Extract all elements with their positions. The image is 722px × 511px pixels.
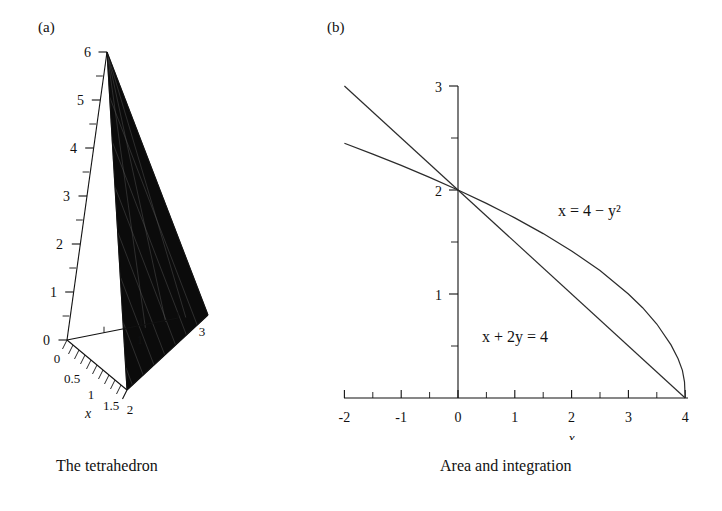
y-axis-tick-labels: 1 2 3 [435,80,442,303]
svg-text:2: 2 [56,237,63,252]
x-axis-name: x [567,431,575,440]
svg-text:4: 4 [682,410,689,425]
x-axis-ticks [63,340,128,399]
svg-text:1.5: 1.5 [103,398,119,413]
svg-text:0: 0 [455,410,462,425]
svg-text:2: 2 [568,410,575,425]
tetrahedron-shaded-face [107,52,208,390]
line-x-plus-2y-equals-4 [344,86,685,398]
x-axis-ticks [344,390,685,398]
svg-text:3: 3 [435,80,442,95]
y-axis-ticks [449,86,458,346]
x-axis-tick-labels: -2 -1 0 1 2 3 4 x [339,410,689,440]
svg-text:1: 1 [435,288,442,303]
curve-x-equals-4-minus-y-squared [344,143,685,398]
svg-text:1: 1 [137,332,144,347]
parabola-label: x = 4 − y² [558,202,621,220]
line-label: x + 2y = 4 [482,328,548,346]
svg-text:1: 1 [511,410,518,425]
svg-text:3: 3 [625,410,632,425]
caption-panel-b: Area and integration [440,457,572,475]
svg-text:2: 2 [435,184,442,199]
tetrahedron-svg: 0 1 2 3 4 5 6 [0,0,330,440]
svg-text:0: 0 [43,333,50,348]
svg-text:0: 0 [54,351,61,366]
figure-page: (a) (b) [0,0,722,511]
svg-text:1: 1 [88,387,95,402]
area-integration-plot: -2 -1 0 1 2 3 4 x 1 2 3 [330,0,722,440]
area-svg: -2 -1 0 1 2 3 4 x 1 2 3 [330,0,722,440]
svg-text:3: 3 [63,189,70,204]
caption-panel-a: The tetrahedron [56,457,158,475]
svg-text:4: 4 [70,141,77,156]
svg-text:3: 3 [199,324,206,339]
svg-text:1: 1 [50,285,57,300]
x-axis-name: x [84,406,92,421]
svg-text:2: 2 [127,402,134,417]
svg-text:5: 5 [77,93,84,108]
svg-text:-1: -1 [395,410,407,425]
svg-text:6: 6 [84,45,91,60]
svg-text:-2: -2 [339,410,351,425]
tetrahedron-3d-plot: 0 1 2 3 4 5 6 [0,0,330,440]
svg-text:0.5: 0.5 [64,371,80,386]
